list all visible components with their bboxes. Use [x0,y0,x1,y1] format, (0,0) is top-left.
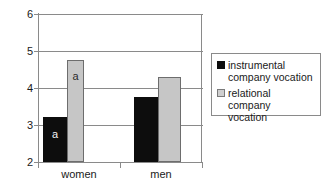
y-tick-label-6: 6 [11,9,33,20]
legend-item-relational: relational company vocation [217,87,316,123]
bar-annotation-women-instrumental: a [44,129,66,140]
gridline-6 [38,14,203,15]
legend-swatch-icon-instrumental [217,61,225,69]
bar-annotation-women-relational: a [68,71,83,82]
legend-label-instrumental: instrumental company vocation [228,59,313,83]
bar-women-relational: a [67,60,84,162]
y-tick-label-4: 4 [11,83,33,94]
x-category-label-women: women [34,168,124,180]
bar-women-instrumental: a [43,117,67,162]
legend-label-relational: relational company vocation [228,87,316,123]
gridline-5 [38,51,203,52]
x-category-label-men: men [116,168,206,180]
legend: instrumental company vocation relational… [211,53,321,116]
y-tick-label-2: 2 [11,157,33,168]
bar-men-instrumental [134,97,158,162]
legend-item-instrumental: instrumental company vocation [217,59,316,83]
bar-chart: 6 5 4 3 2 a a women men instrumental com… [0,0,325,192]
y-tick-label-3: 3 [11,120,33,131]
bar-men-relational [158,77,181,162]
y-tick-label-5: 5 [11,46,33,57]
legend-swatch-icon-relational [217,89,225,97]
